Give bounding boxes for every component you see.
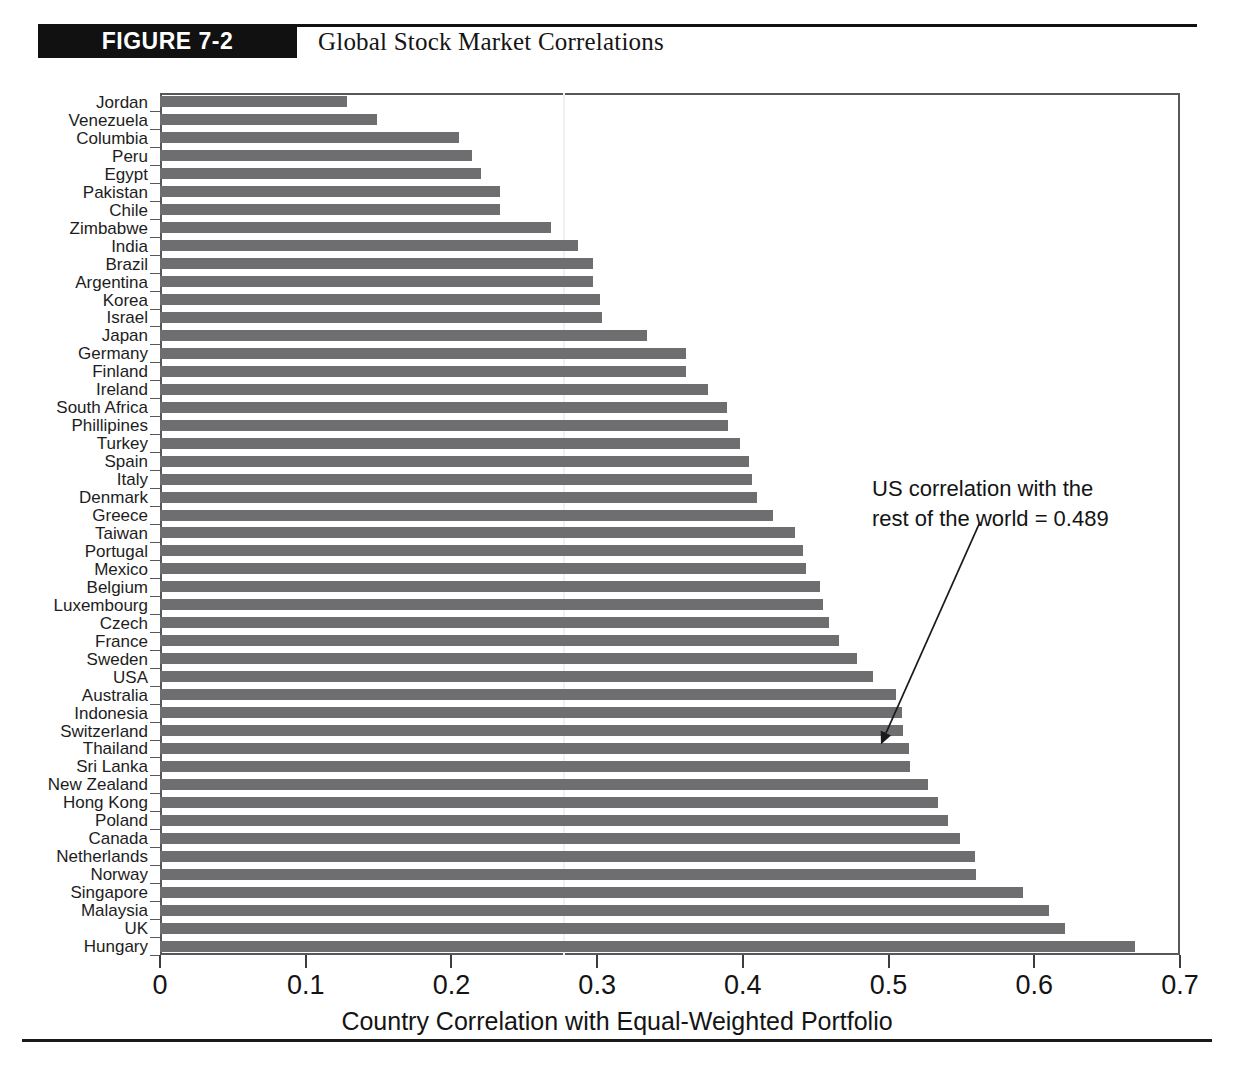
bar-denmark [160, 492, 757, 503]
y-tick-mark [150, 757, 160, 758]
annotation-line-2: rest of the world = 0.489 [872, 504, 1202, 534]
y-tick-mark [150, 883, 160, 884]
y-tick-mark [150, 326, 160, 327]
y-axis-label-germany: Germany [0, 345, 148, 362]
y-axis-label-argentina: Argentina [0, 274, 148, 291]
y-axis-label-usa: USA [0, 669, 148, 686]
y-tick-mark [150, 614, 160, 615]
y-tick-mark [150, 847, 160, 848]
y-axis-label-chile: Chile [0, 202, 148, 219]
y-tick-mark [150, 524, 160, 525]
bar-korea [160, 294, 600, 305]
bar-uk [160, 923, 1065, 934]
bar-peru [160, 150, 472, 161]
y-axis-label-egypt: Egypt [0, 166, 148, 183]
y-tick-mark [150, 362, 160, 363]
y-axis-label-poland: Poland [0, 812, 148, 829]
y-tick-mark [150, 506, 160, 507]
y-axis-label-norway: Norway [0, 866, 148, 883]
y-tick-mark [150, 147, 160, 148]
bar-greece [160, 510, 773, 521]
y-tick-mark [150, 183, 160, 184]
x-axis-tick-label: 0.7 [1140, 970, 1220, 1001]
bar-japan [160, 330, 647, 341]
x-axis-tick-label: 0 [120, 970, 200, 1001]
bar-sri-lanka [160, 761, 910, 772]
x-tick-mark [159, 955, 161, 968]
y-tick-mark [150, 686, 160, 687]
bar-norway [160, 869, 976, 880]
y-axis-label-malaysia: Malaysia [0, 902, 148, 919]
bar-australia [160, 689, 896, 700]
bar-italy [160, 474, 752, 485]
y-axis-label-new-zealand: New Zealand [0, 776, 148, 793]
bar-venezuela [160, 114, 377, 125]
y-axis-label-spain: Spain [0, 453, 148, 470]
y-tick-mark [150, 937, 160, 938]
bar-switzerland [160, 725, 903, 736]
y-axis-label-pakistan: Pakistan [0, 184, 148, 201]
y-axis-label-israel: Israel [0, 309, 148, 326]
y-tick-mark [150, 201, 160, 202]
y-axis-label-south-africa: South Africa [0, 399, 148, 416]
bar-czech [160, 617, 829, 628]
y-tick-mark [150, 919, 160, 920]
y-tick-mark [150, 344, 160, 345]
bar-jordan [160, 96, 347, 107]
y-axis-label-korea: Korea [0, 292, 148, 309]
y-axis-label-japan: Japan [0, 327, 148, 344]
y-tick-mark [150, 722, 160, 723]
bar-singapore [160, 887, 1023, 898]
y-tick-mark [150, 740, 160, 741]
y-axis-label-portugal: Portugal [0, 543, 148, 560]
y-axis-label-finland: Finland [0, 363, 148, 380]
y-axis-label-ireland: Ireland [0, 381, 148, 398]
y-axis-label-indonesia: Indonesia [0, 705, 148, 722]
bar-netherlands [160, 851, 975, 862]
annotation-label: US correlation with the rest of the worl… [872, 474, 1202, 534]
header-rule [297, 24, 1197, 27]
y-tick-mark [150, 129, 160, 130]
figure-header: FIGURE 7-2 Global Stock Market Correlati… [0, 0, 1234, 78]
y-axis-label-hungary: Hungary [0, 938, 148, 955]
y-axis-label-hong-kong: Hong Kong [0, 794, 148, 811]
bar-indonesia [160, 707, 902, 718]
y-axis-label-thailand: Thailand [0, 740, 148, 757]
bar-turkey [160, 438, 740, 449]
x-axis-tick-label: 0.2 [411, 970, 491, 1001]
x-axis-title: Country Correlation with Equal-Weighted … [0, 1007, 1234, 1036]
y-tick-mark [150, 901, 160, 902]
bar-thailand [160, 743, 909, 754]
y-axis-label-taiwan: Taiwan [0, 525, 148, 542]
y-axis-label-luxembourg: Luxembourg [0, 597, 148, 614]
bar-germany [160, 348, 686, 359]
x-tick-mark [1179, 955, 1181, 968]
y-axis-label-greece: Greece [0, 507, 148, 524]
y-tick-mark [150, 416, 160, 417]
bar-hong-kong [160, 797, 938, 808]
y-tick-mark [150, 650, 160, 651]
bar-ireland [160, 384, 708, 395]
y-tick-mark [150, 452, 160, 453]
y-tick-mark [150, 398, 160, 399]
bar-mexico [160, 563, 806, 574]
bar-belgium [160, 581, 820, 592]
bar-south-africa [160, 402, 727, 413]
x-axis-tick-label: 0.3 [557, 970, 637, 1001]
y-axis-label-switzerland: Switzerland [0, 723, 148, 740]
x-tick-mark [1033, 955, 1035, 968]
y-tick-mark [150, 273, 160, 274]
y-tick-mark [150, 237, 160, 238]
y-tick-mark [150, 775, 160, 776]
y-axis-label-netherlands: Netherlands [0, 848, 148, 865]
y-axis-label-sweden: Sweden [0, 651, 148, 668]
bar-israel [160, 312, 602, 323]
y-axis-labels: JordanVenezuelaColumbiaPeruEgyptPakistan… [0, 93, 148, 955]
bar-columbia [160, 132, 459, 143]
y-tick-mark [150, 255, 160, 256]
y-tick-mark [150, 488, 160, 489]
y-tick-mark [150, 165, 160, 166]
y-tick-mark [150, 560, 160, 561]
y-axis-label-mexico: Mexico [0, 561, 148, 578]
annotation-line-1: US correlation with the [872, 474, 1202, 504]
